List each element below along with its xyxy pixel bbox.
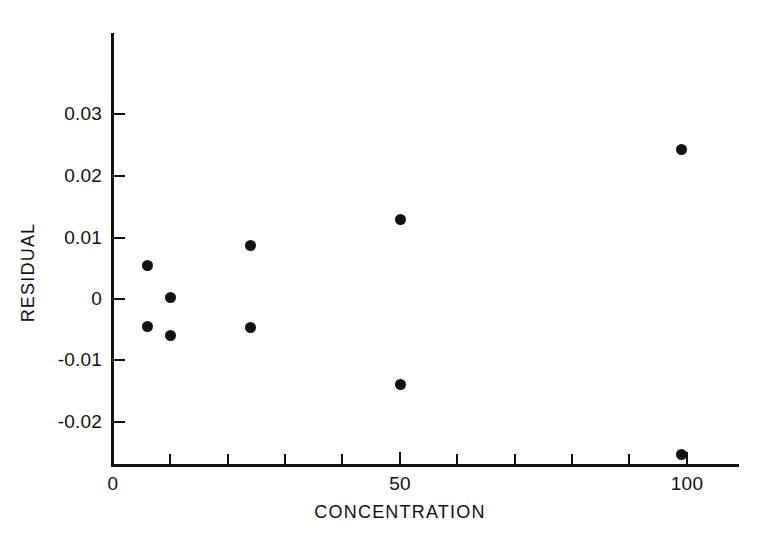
data-point [395, 214, 406, 225]
data-point [142, 321, 153, 332]
data-point [165, 330, 176, 341]
scatter-plot-figure: 0.03 0.02 0.01 0 -0.01 -0.02 0 50 100 CO… [0, 0, 769, 542]
data-point [395, 379, 406, 390]
data-point [245, 322, 256, 333]
data-point [245, 240, 256, 251]
data-point [142, 260, 153, 271]
plot-area [0, 0, 769, 542]
data-point [676, 449, 687, 460]
data-point [165, 292, 176, 303]
data-point [676, 144, 687, 155]
